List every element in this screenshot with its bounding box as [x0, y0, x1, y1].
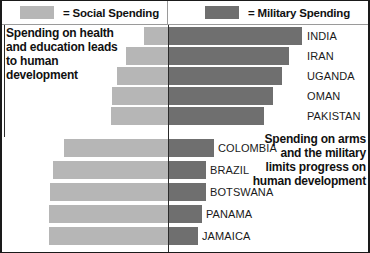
bar-row [2, 227, 368, 245]
bar-segment-military [168, 139, 214, 157]
bar-segment-social [64, 139, 168, 157]
country-label-iran: IRAN [307, 47, 334, 65]
bar-segment-social [126, 47, 168, 65]
annotation-right-text: Spending on arms and the military limits… [248, 133, 366, 189]
bar-segment-military [168, 67, 282, 85]
country-label-pakistan: PAKISTAN [307, 107, 361, 125]
bar-segment-military [168, 47, 289, 65]
legend-swatch-social-icon [20, 6, 54, 19]
legend-item-social-spending: = Social Spending [2, 1, 167, 24]
bar-segment-social [50, 183, 168, 201]
country-label-india: INDIA [307, 27, 337, 45]
country-label-oman: OMAN [307, 87, 340, 105]
chart-figure: = Social Spending = Military Spending IN… [0, 0, 370, 253]
country-label-panama: PANAMA [206, 205, 252, 223]
legend-label-military: = Military Spending [248, 7, 350, 19]
bar-segment-social [112, 87, 168, 105]
plot-area: INDIAIRANUGANDAOMANPAKISTANCOLOMBIABRAZI… [2, 25, 368, 252]
bar-segment-social [49, 227, 168, 245]
bar-segment-social [111, 107, 168, 125]
legend-label-social: = Social Spending [63, 7, 159, 19]
country-label-brazil: BRAZIL [210, 161, 249, 179]
bar-segment-social [144, 27, 168, 45]
center-axis-line [168, 25, 169, 252]
bar-segment-military [168, 205, 202, 223]
bar-segment-military [168, 107, 264, 125]
legend-swatch-military-icon [205, 6, 239, 19]
bar-segment-social [117, 67, 168, 85]
bar-segment-social [53, 161, 168, 179]
chart-legend: = Social Spending = Military Spending [2, 1, 368, 24]
country-label-uganda: UGANDA [307, 67, 355, 85]
annotation-left-text: Spending on health and education leads t… [6, 27, 118, 83]
bar-row [2, 205, 368, 223]
bar-segment-military [168, 27, 302, 45]
bar-segment-military [168, 161, 206, 179]
bar-segment-social [49, 205, 168, 223]
bar-segment-military [168, 87, 273, 105]
legend-item-military-spending: = Military Spending [167, 1, 368, 24]
country-label-jamaica: JAMAICA [202, 227, 250, 245]
bar-segment-military [168, 183, 206, 201]
bar-segment-military [168, 227, 198, 245]
